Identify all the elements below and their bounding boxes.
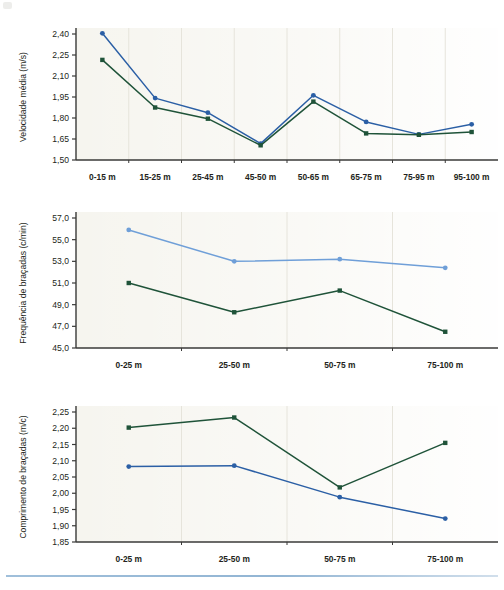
x-category-label: 75-95 m xyxy=(403,172,434,182)
chart-frequencia-bracadas: 57,055,053,051,049,047,045,00-25 m25-50 … xyxy=(0,196,504,378)
y-tick-label: 45,0 xyxy=(52,343,69,353)
data-point-marker xyxy=(232,463,237,468)
data-point-marker xyxy=(232,310,236,314)
data-point-marker xyxy=(205,110,210,115)
chart-canvas-frequencia-bracadas: 57,055,053,051,049,047,045,00-25 m25-50 … xyxy=(0,196,504,378)
chart-canvas-comprimento-bracadas: 2,252,202,152,102,052,001,951,901,850-25… xyxy=(0,390,504,572)
data-point-marker xyxy=(469,122,474,127)
chart-velocidade-media: 2,402,252,101,951,801,651,500-15 m15-25 … xyxy=(0,8,504,190)
x-category-label: 15-25 m xyxy=(140,172,171,182)
y-tick-label: 53,0 xyxy=(52,256,69,266)
x-category-label: 65-75 m xyxy=(351,172,382,182)
x-category-label: 50-65 m xyxy=(298,172,329,182)
y-axis-title: Velocidade média (m/s) xyxy=(18,52,28,142)
data-point-marker xyxy=(443,516,448,521)
y-tick-label: 57,0 xyxy=(52,213,69,223)
y-tick-label: 1,90 xyxy=(52,521,69,531)
x-category-label: 50-75 m xyxy=(324,554,355,564)
y-tick-label: 1,95 xyxy=(52,92,69,102)
y-axis-title: Frequência de braçadas (c/min) xyxy=(18,222,28,343)
y-tick-label: 55,0 xyxy=(52,235,69,245)
y-tick-label: 1,95 xyxy=(52,505,69,515)
data-point-marker xyxy=(206,117,210,121)
data-point-marker xyxy=(232,415,236,419)
y-tick-label: 2,05 xyxy=(52,472,69,482)
x-category-label: 25-50 m xyxy=(219,554,250,564)
y-tick-label: 2,15 xyxy=(52,440,69,450)
x-category-label: 0-15 m xyxy=(89,172,116,182)
y-tick-label: 2,00 xyxy=(52,488,69,498)
data-point-marker xyxy=(443,330,447,334)
data-point-marker xyxy=(338,288,342,292)
x-category-label: 45-50 m xyxy=(245,172,276,182)
data-point-marker xyxy=(364,131,368,135)
x-category-label: 25-50 m xyxy=(219,360,250,370)
data-point-marker xyxy=(338,485,342,489)
data-point-marker xyxy=(337,495,342,500)
y-tick-label: 2,25 xyxy=(52,50,69,60)
data-point-marker xyxy=(364,120,369,125)
data-point-marker xyxy=(100,31,105,36)
y-tick-label: 2,10 xyxy=(52,456,69,466)
y-tick-label: 2,20 xyxy=(52,423,69,433)
chart-canvas-velocidade-media: 2,402,252,101,951,801,651,500-15 m15-25 … xyxy=(0,8,504,190)
data-point-marker xyxy=(232,259,237,264)
x-category-label: 75-100 m xyxy=(427,360,463,370)
y-tick-label: 1,50 xyxy=(52,155,69,165)
x-category-label: 75-100 m xyxy=(427,554,463,564)
data-point-marker xyxy=(258,143,262,147)
data-point-marker xyxy=(417,133,421,137)
data-point-marker xyxy=(443,441,447,445)
data-point-marker xyxy=(100,58,104,62)
y-tick-label: 47,0 xyxy=(52,321,69,331)
y-tick-label: 2,25 xyxy=(52,407,69,417)
data-point-marker xyxy=(443,265,448,270)
x-category-label: 0-25 m xyxy=(115,554,142,564)
data-point-marker xyxy=(153,96,158,101)
data-point-marker xyxy=(127,281,131,285)
y-tick-label: 1,65 xyxy=(52,134,69,144)
data-point-marker xyxy=(311,93,316,98)
data-point-marker xyxy=(126,228,131,233)
y-tick-label: 2,10 xyxy=(52,71,69,81)
y-tick-label: 51,0 xyxy=(52,278,69,288)
x-category-label: 0-25 m xyxy=(115,360,142,370)
y-tick-label: 1,80 xyxy=(52,113,69,123)
data-point-marker xyxy=(311,99,315,103)
footer-rule xyxy=(6,575,498,577)
data-point-marker xyxy=(126,464,131,469)
x-category-label: 95-100 m xyxy=(454,172,490,182)
data-point-marker xyxy=(469,130,473,134)
y-tick-label: 49,0 xyxy=(52,300,69,310)
data-point-marker xyxy=(153,105,157,109)
y-tick-label: 1,85 xyxy=(52,537,69,547)
data-point-marker xyxy=(127,425,131,429)
y-axis-title: Comprimento de braçadas (m/c) xyxy=(18,415,28,538)
figure-page: 2,402,252,101,951,801,651,500-15 m15-25 … xyxy=(0,0,504,590)
data-point-marker xyxy=(337,257,342,262)
x-category-label: 50-75 m xyxy=(324,360,355,370)
chart-comprimento-bracadas: 2,252,202,152,102,052,001,951,901,850-25… xyxy=(0,390,504,572)
y-tick-label: 2,40 xyxy=(52,29,69,39)
x-category-label: 25-45 m xyxy=(192,172,223,182)
